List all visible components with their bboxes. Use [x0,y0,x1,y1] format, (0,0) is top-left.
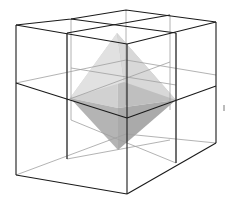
cube-octahedron-diagram [0,0,226,214]
diagram-stage: Octahedron inscribed in a cube divided i… [0,0,226,214]
octahedron [70,33,176,150]
